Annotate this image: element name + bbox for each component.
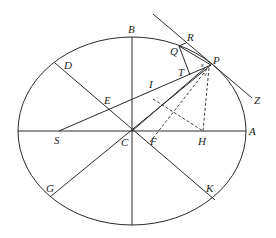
label-E: E bbox=[103, 94, 111, 106]
label-H: H bbox=[197, 135, 207, 147]
label-B: B bbox=[128, 23, 135, 35]
label-A: A bbox=[248, 125, 256, 137]
label-Z: Z bbox=[254, 94, 261, 106]
label-G: G bbox=[46, 182, 54, 194]
label-Q: Q bbox=[170, 45, 178, 57]
label-P: P bbox=[212, 54, 220, 66]
chord-QP bbox=[179, 46, 211, 65]
dashed-PH bbox=[203, 68, 209, 131]
line-QR bbox=[179, 43, 186, 46]
label-K: K bbox=[205, 182, 214, 194]
label-x: x bbox=[200, 62, 204, 68]
label-T: T bbox=[178, 66, 185, 78]
dashed-IH bbox=[153, 99, 203, 131]
label-R: R bbox=[186, 31, 194, 43]
label-S: S bbox=[54, 134, 60, 146]
label-F: F bbox=[149, 135, 157, 147]
line-xv-C bbox=[132, 68, 205, 131]
ellipse-diagram: B D E I S C F H A G K R Q T P Z x v bbox=[0, 0, 276, 238]
label-v: v bbox=[204, 71, 207, 77]
label-D: D bbox=[63, 59, 72, 71]
label-I: I bbox=[148, 78, 154, 90]
tangent-line bbox=[153, 14, 252, 98]
label-C: C bbox=[121, 136, 129, 148]
